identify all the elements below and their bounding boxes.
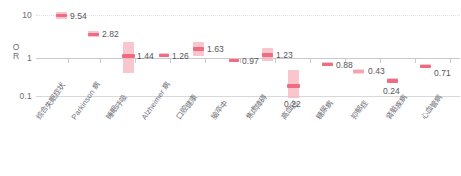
category-label-1: 综合失眠症状 [33,80,66,121]
plot-area: O R 10 1 0.1 9.54 2.82 [0,0,461,176]
point-marker-5[interactable] [193,47,204,51]
x-tick-6 [240,58,241,63]
value-label-4: 1.26 [172,51,189,61]
point-marker-1[interactable] [56,14,67,17]
category-label-6: 脑卒中 [208,98,229,122]
value-label-7: 1.23 [276,50,293,60]
x-tick-10 [380,58,381,63]
point-marker-7[interactable] [262,53,273,57]
point-marker-4[interactable] [159,54,169,57]
point-marker-12[interactable] [420,65,431,68]
point-marker-10[interactable] [287,84,300,88]
y-tick-label-10: 10 [12,10,32,20]
x-tick-5 [205,58,206,63]
value-label-9: 0.43 [368,66,385,76]
point-marker-11[interactable] [387,79,398,83]
value-label-8: 0.88 [336,60,353,70]
y-tick-label-0-1: 0.1 [8,91,32,101]
x-tick-4 [170,58,171,63]
value-label-1: 9.54 [70,11,87,21]
category-label-2: Parkinson 病 [68,79,102,121]
category-label-4: Alzheimer 病 [138,79,172,121]
x-tick-2 [100,58,101,63]
category-label-8: 高血压 [278,98,299,122]
x-tick-1 [68,58,69,63]
value-label-3: 1.44 [137,51,154,61]
value-label-2: 2.82 [102,29,119,39]
point-marker-8[interactable] [322,63,333,66]
value-label-12: 0.71 [434,68,451,78]
x-tick-3 [135,58,136,63]
category-label-10: 抑郁症 [348,98,369,122]
x-tick-8 [310,58,311,63]
y-tick-label-1: 1 [12,53,32,63]
value-label-6: 0.97 [242,56,259,66]
x-tick-12 [450,58,451,63]
point-marker-6[interactable] [229,59,239,62]
point-marker-3[interactable] [122,54,135,58]
value-label-5: 1.63 [207,44,224,54]
x-tick-11 [415,58,416,63]
point-marker-2[interactable] [88,33,99,36]
point-marker-9[interactable] [353,70,364,73]
odds-ratio-forest-chart: O R 10 1 0.1 9.54 2.82 [0,0,461,176]
category-label-9: 糖尿病 [313,98,334,122]
gridline-10 [36,15,460,16]
